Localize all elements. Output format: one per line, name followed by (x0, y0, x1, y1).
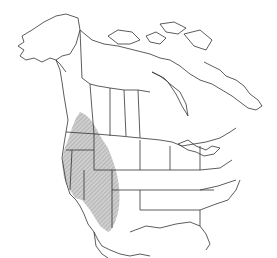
gulf-coast (130, 180, 240, 250)
canada-north-coast (80, 30, 262, 110)
great-lakes (178, 140, 220, 156)
hudson-bay (152, 72, 188, 116)
arctic-islands (108, 22, 212, 50)
range-map (0, 0, 277, 258)
map-borders (18, 14, 262, 258)
alaska-outline (18, 14, 80, 62)
mexico-outline (94, 232, 150, 258)
province-borders (56, 30, 150, 138)
